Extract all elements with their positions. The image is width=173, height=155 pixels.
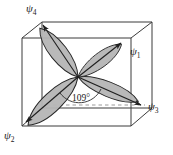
cube-edge-top-left	[22, 22, 42, 38]
bond-axis-psi1	[78, 43, 121, 77]
psi3-glyph: ψ	[148, 100, 155, 112]
cube-edge-top-right	[131, 22, 152, 38]
psi2-subscript: 2	[11, 135, 15, 144]
psi4-subscript: 4	[33, 8, 37, 17]
psi1-subscript: 1	[137, 51, 141, 60]
orbital-label-psi1: ψ1	[130, 46, 141, 60]
psi1-glyph: ψ	[130, 45, 137, 57]
orbital-lobe-psi4	[33, 23, 85, 82]
psi4-glyph: ψ	[26, 2, 33, 14]
orbital-label-psi3: ψ3	[148, 101, 159, 115]
orbital-diagram-figure: ψ4 ψ1 ψ3 ψ2 109°	[0, 0, 173, 155]
orbital-label-psi4: ψ4	[26, 3, 37, 17]
psi2-glyph: ψ	[4, 129, 11, 141]
orbital-diagram-canvas	[0, 0, 173, 155]
bond-angle-label: 109°	[72, 94, 90, 104]
psi3-subscript: 3	[155, 106, 159, 115]
orbital-label-psi2: ψ2	[4, 130, 15, 144]
